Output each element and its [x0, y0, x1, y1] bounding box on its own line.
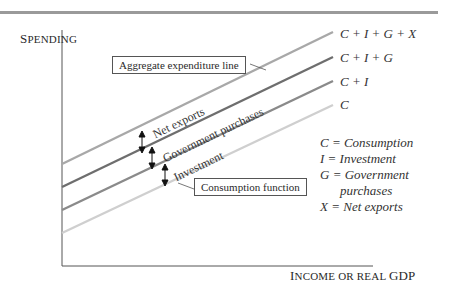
- x-axis-label: INCOME OR REAL GDP: [290, 268, 416, 284]
- y-axis-label: SPENDING: [20, 31, 77, 47]
- legend-x: X = Net exports: [320, 199, 413, 215]
- government-arrow-icon: [149, 147, 155, 169]
- net-exports-arrow-icon: [139, 131, 145, 153]
- consumption-leader: [178, 183, 194, 189]
- investment-arrow-icon: [162, 164, 168, 186]
- legend-g-cont: purchases: [320, 183, 413, 199]
- legend-g: G = Government: [320, 167, 413, 183]
- consumption-function-callout: Consumption function: [194, 178, 307, 196]
- legend: C = Consumption I = Investment G = Gover…: [320, 135, 413, 215]
- label-ci: C + I: [340, 74, 368, 90]
- label-cig: C + I + G: [340, 50, 393, 66]
- label-cigx: C + I + G + X: [340, 26, 416, 42]
- aggregate-expenditure-callout: Aggregate expenditure line: [112, 56, 246, 74]
- label-c: C: [340, 97, 349, 113]
- legend-c: C = Consumption: [320, 135, 413, 151]
- legend-i: I = Investment: [320, 151, 413, 167]
